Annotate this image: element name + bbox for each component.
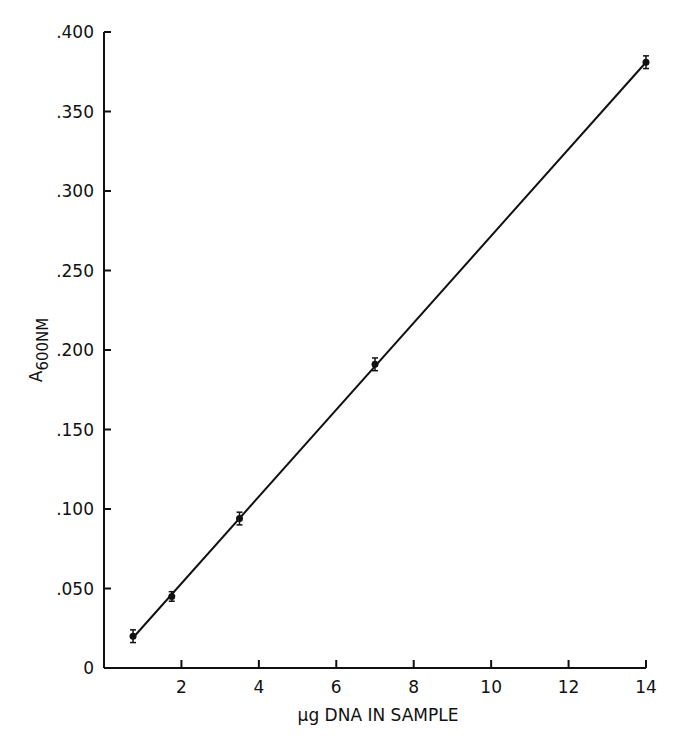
y-axis-title-subscript: 600NM (34, 318, 52, 371)
data-point (168, 592, 175, 602)
x-tick-label: 8 (408, 677, 419, 697)
y-tick-label: .300 (56, 181, 94, 201)
x-tick-label: 2 (176, 677, 187, 697)
data-point (130, 630, 137, 643)
y-tick-label: 0 (83, 658, 94, 678)
y-axis-title-main: A (26, 370, 46, 382)
x-axis-title: µg DNA IN SAMPLE (298, 705, 459, 725)
regression-line (133, 62, 646, 638)
point-marker (372, 361, 379, 368)
point-marker (168, 593, 175, 600)
chart-plot: 0.050.100.150.200.250.300.350.400 246810… (0, 0, 673, 738)
point-marker (236, 515, 243, 522)
x-axis-ticks: 2468101214 (176, 660, 657, 697)
axes (104, 32, 646, 668)
point-marker (643, 59, 650, 66)
y-tick-label: .050 (56, 579, 94, 599)
y-tick-label: .400 (56, 22, 94, 42)
y-axis-title: A600NM (26, 318, 52, 382)
y-tick-label: .100 (56, 499, 94, 519)
x-tick-label: 10 (480, 677, 502, 697)
y-tick-label: .150 (56, 420, 94, 440)
x-tick-label: 12 (558, 677, 580, 697)
point-marker (130, 633, 137, 640)
x-tick-label: 4 (253, 677, 264, 697)
y-tick-label: .350 (56, 102, 94, 122)
data-point (643, 56, 650, 69)
x-tick-label: 14 (635, 677, 657, 697)
y-axis-ticks: 0.050.100.150.200.250.300.350.400 (56, 22, 111, 678)
y-tick-label: .250 (56, 261, 94, 281)
fit-line (133, 62, 646, 638)
y-tick-label: .200 (56, 340, 94, 360)
svg-text:A600NM: A600NM (26, 318, 52, 382)
x-tick-label: 6 (331, 677, 342, 697)
